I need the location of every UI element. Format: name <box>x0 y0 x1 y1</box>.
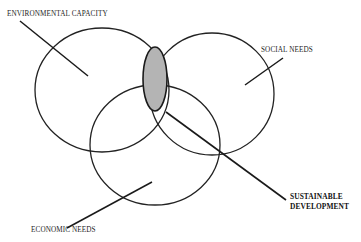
sustainable-label-line1: SUSTAINABLE <box>290 192 349 202</box>
social-needs-label: SOCIAL NEEDS <box>261 47 313 54</box>
sustainable-label-line2: DEVELOPMENT <box>290 202 349 212</box>
environmental-capacity-label: ENVIRONMENTAL CAPACITY <box>7 11 108 18</box>
sustainable-leader-line <box>166 112 286 200</box>
environmental-leader-line <box>20 21 88 76</box>
economic-leader-line <box>67 182 152 228</box>
economic-needs-label: ECONOMIC NEEDS <box>31 227 96 234</box>
sustainable-development-intersection <box>143 47 167 111</box>
social-leader-line <box>245 58 283 85</box>
sustainable-development-label: SUSTAINABLE DEVELOPMENT <box>290 192 349 212</box>
